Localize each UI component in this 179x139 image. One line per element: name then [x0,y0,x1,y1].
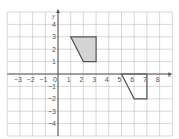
x-axis-label: x [167,71,172,79]
y-axis-arrow-icon [56,9,60,13]
x-tick-label: −3 [14,76,22,83]
y-tick-label: 4 [52,21,56,28]
y-tick-label: 3 [52,33,56,40]
x-tick-label: 3 [92,76,96,83]
x-tick-label: 4 [105,76,109,83]
y-tick-label: −1 [48,83,56,90]
x-tick-label: 2 [79,76,83,83]
x-tick-label: 6 [130,76,134,83]
coordinate-grid: −3−2−10123456784321−1−2−3−4xy [0,0,179,139]
y-tick-label: 2 [52,46,56,53]
y-axis-label: y [51,12,56,20]
x-tick-label: 1 [67,76,71,83]
y-tick-label: −3 [48,108,56,115]
y-tick-label: 1 [52,58,56,65]
x-tick-label: −1 [39,76,47,83]
x-tick-label: 7 [143,76,147,83]
x-tick-label: 8 [156,76,160,83]
y-tick-label: −2 [48,95,56,102]
x-tick-label: −2 [27,76,35,83]
y-tick-label: −4 [48,120,56,127]
x-tick-label: 5 [118,76,122,83]
